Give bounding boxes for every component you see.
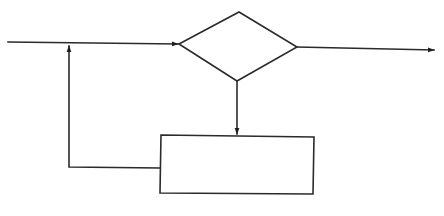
- input-edge: [8, 42, 178, 44]
- decision-node: [179, 12, 297, 81]
- feedback-edge: [69, 46, 160, 168]
- feedback-arrow: [69, 46, 160, 168]
- flowchart-diagram: [0, 0, 444, 216]
- output-arrow: [297, 47, 434, 50]
- output-edge: [297, 47, 434, 50]
- diagram-svg: [0, 0, 444, 216]
- process-rectangle-shape: [160, 135, 314, 194]
- decision-diamond-shape: [179, 12, 297, 81]
- process-node: [160, 135, 314, 194]
- input-arrow: [8, 42, 178, 44]
